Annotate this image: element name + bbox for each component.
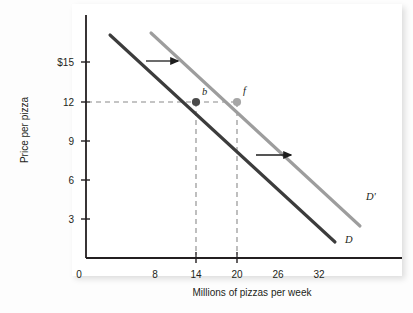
y-tick-label-12: 12 [63, 97, 75, 108]
y-tick-label-15: $15 [57, 57, 74, 68]
curve-label-d-prime: D' [365, 191, 377, 202]
demand-curve-d [110, 35, 335, 242]
data-point-b[interactable] [192, 98, 200, 106]
x-tick-label-0: 0 [76, 269, 82, 280]
curve-labels: D' D [344, 191, 377, 245]
data-point-label-f: f [243, 85, 248, 96]
x-tick-label-32: 32 [313, 269, 325, 280]
x-tick-label-20: 20 [231, 269, 243, 280]
data-point-label-b: b [202, 86, 207, 97]
demand-curve-chart: $15 12 9 6 3 0 8 14 20 26 32 [0, 0, 413, 313]
demand-curve-d-line [110, 35, 335, 242]
y-axis-title: Price per pizza [19, 96, 30, 163]
x-axis-title: Millions of pizzas per week [193, 287, 313, 298]
x-tick-label-26: 26 [272, 269, 284, 280]
guide-lines-group [87, 102, 237, 257]
curve-label-d: D [344, 234, 353, 245]
y-axis-tick-labels: $15 12 9 6 3 [57, 57, 74, 225]
x-axis-tick-labels: 0 8 14 20 26 32 [76, 269, 325, 280]
y-tick-label-3: 3 [68, 214, 74, 225]
demand-curve-d-prime-line [151, 33, 360, 226]
data-point-f[interactable] [233, 98, 241, 106]
y-tick-label-9: 9 [68, 136, 74, 147]
figure-root: $15 12 9 6 3 0 8 14 20 26 32 [0, 0, 413, 313]
x-tick-label-14: 14 [190, 269, 202, 280]
y-tick-label-6: 6 [68, 175, 74, 186]
x-tick-label-8: 8 [152, 269, 158, 280]
demand-curve-d-prime [151, 33, 360, 226]
